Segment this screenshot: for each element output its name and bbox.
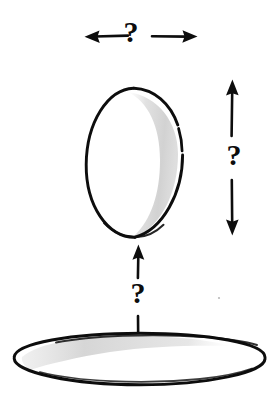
egg-shape xyxy=(86,88,182,238)
height-question-label: ? xyxy=(222,140,246,170)
nest-ring-shape xyxy=(14,333,265,385)
ink-speck xyxy=(218,297,220,299)
height-arrow-down xyxy=(226,180,239,236)
egg-dimension-figure: ? ? ? xyxy=(0,0,278,418)
gap-arrow-up xyxy=(132,245,144,279)
figure-canvas xyxy=(0,0,278,418)
width-arrow-right xyxy=(152,30,198,42)
width-question-label: ? xyxy=(119,17,143,47)
gap-question-label: ? xyxy=(126,278,150,308)
height-arrow-up xyxy=(226,80,239,137)
